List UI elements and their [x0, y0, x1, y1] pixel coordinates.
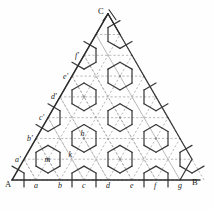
- baseline-label-f: f: [154, 181, 158, 190]
- left-edge-label-1: a′: [15, 155, 21, 164]
- left-edge-label-6: f′: [75, 51, 79, 60]
- left-edge-label-2: b′: [27, 134, 33, 143]
- left-edge-label-4: d′: [51, 92, 57, 101]
- solid-hexagon-tiling: [12, 21, 204, 187]
- figure-root: A B C abcdefg a′b′c′d′e′f′ hkm: [0, 0, 214, 210]
- baseline-label-g: g: [178, 181, 182, 190]
- vertex-label-C: C: [98, 6, 104, 16]
- baseline-label-a: a: [34, 181, 38, 190]
- lattice-diagram: A B C abcdefg a′b′c′d′e′f′ hkm: [0, 0, 214, 210]
- interior-label-k: k: [69, 150, 73, 159]
- baseline-label-d: d: [106, 181, 111, 190]
- baseline-labels: abcdefg: [34, 181, 182, 190]
- vertex-label-A: A: [5, 179, 12, 189]
- left-edge-label-3: c′: [39, 113, 45, 122]
- baseline-label-b: b: [58, 181, 62, 190]
- interior-label-h: h: [81, 129, 85, 138]
- baseline-label-c: c: [82, 181, 86, 190]
- left-edge-label-5: e′: [63, 72, 69, 81]
- baseline-label-e: e: [130, 181, 134, 190]
- interior-label-m: m: [45, 155, 51, 164]
- left-edge-labels: a′b′c′d′e′f′: [15, 51, 79, 164]
- triangle-outline: [12, 10, 200, 180]
- vertex-label-B: B: [192, 177, 198, 187]
